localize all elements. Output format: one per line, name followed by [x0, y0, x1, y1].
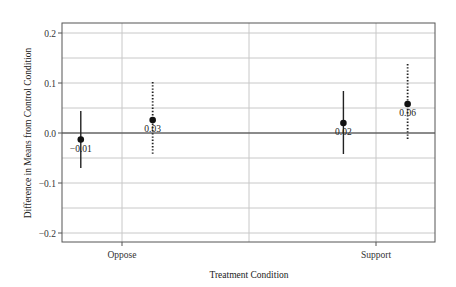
- chart-canvas: −0.2−0.10.00.10.2 OpposeSupport −0.010.0…: [0, 0, 456, 287]
- y-tick-label: −0.1: [39, 179, 56, 189]
- point-value-label: 0.06: [399, 108, 416, 118]
- x-tick-label: Oppose: [107, 250, 136, 260]
- point-value-label: −0.01: [70, 144, 92, 154]
- y-axis-ticks: −0.2−0.10.00.10.2: [39, 29, 62, 239]
- estimate-point: 0.02: [335, 91, 352, 154]
- y-tick-label: 0.0: [44, 129, 56, 139]
- x-axis-ticks: OpposeSupport: [107, 242, 391, 260]
- x-axis-title: Treatment Condition: [209, 270, 288, 280]
- point-value-label: 0.02: [335, 127, 352, 137]
- x-tick-label: Support: [361, 250, 391, 260]
- y-tick-label: 0.1: [44, 79, 56, 89]
- point-marker: [149, 117, 156, 124]
- point-marker: [404, 101, 411, 108]
- point-marker: [77, 136, 84, 143]
- y-axis-title: Difference in Means from Control Conditi…: [23, 47, 33, 218]
- y-tick-label: −0.2: [39, 229, 56, 239]
- estimate-point: −0.01: [70, 111, 92, 168]
- point-marker: [340, 120, 347, 127]
- point-value-label: 0.03: [144, 124, 161, 134]
- y-tick-label: 0.2: [44, 29, 56, 39]
- estimate-point: 0.03: [144, 82, 161, 155]
- estimate-point: 0.06: [399, 64, 416, 139]
